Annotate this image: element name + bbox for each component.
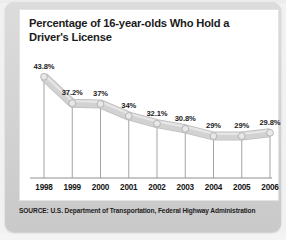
x-axis-tick-label: 2003: [177, 183, 194, 192]
x-axis-tick-label: 2002: [148, 183, 165, 192]
source-bar: SOURCE: U.S. Department of Transportatio…: [19, 202, 277, 218]
data-point-marker: [69, 100, 76, 107]
data-point-label: 37%: [93, 89, 108, 98]
source-text: SOURCE: U.S. Department of Transportatio…: [19, 207, 255, 214]
data-point-label: 30.8%: [175, 114, 196, 123]
data-point-marker: [125, 113, 132, 120]
chart-screenshot: Percentage of 16-year-olds Who Hold a Dr…: [0, 0, 286, 240]
data-point-marker: [97, 101, 104, 108]
data-point-label: 37.2%: [62, 88, 83, 97]
page-bottom-margin: [0, 233, 286, 240]
x-axis-tick-label: 2000: [92, 183, 109, 192]
data-point-marker: [41, 73, 48, 80]
x-axis-tick-label: 2005: [233, 183, 250, 192]
data-point-marker: [154, 120, 161, 127]
chart-title: Percentage of 16-year-olds Who Hold a Dr…: [29, 17, 264, 44]
data-point-label: 29%: [234, 121, 249, 130]
data-point-marker: [238, 133, 245, 140]
data-point-marker: [182, 125, 189, 132]
x-axis-tick-label: 2001: [120, 183, 137, 192]
data-point-label: 32.1%: [146, 109, 167, 118]
x-axis-tick-label: 1999: [64, 183, 81, 192]
data-point-label: 29.8%: [259, 118, 280, 127]
x-axis-tick-label: 1998: [35, 183, 52, 192]
data-point-marker: [267, 129, 274, 136]
x-axis-tick-label: 2006: [261, 183, 278, 192]
data-point-marker: [210, 133, 217, 140]
plot-area: 43.8%37.2%37%34%32.1%30.8%29%29%29.8%199…: [20, 46, 278, 200]
data-point-label: 43.8%: [33, 62, 54, 71]
chart-panel: Percentage of 16-year-olds Who Hold a Dr…: [19, 9, 279, 201]
x-axis-tick-label: 2004: [205, 183, 222, 192]
data-point-label: 29%: [206, 121, 221, 130]
chart-card: Percentage of 16-year-olds Who Hold a Dr…: [5, 2, 281, 232]
data-point-label: 34%: [121, 101, 136, 110]
page-right-margin: [281, 0, 286, 240]
